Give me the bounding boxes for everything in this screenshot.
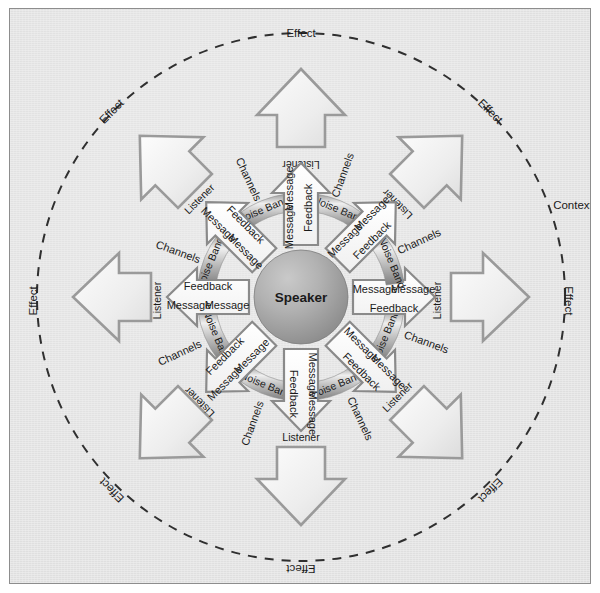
channels-label: Channels (234, 156, 265, 204)
effect-arrow (257, 69, 345, 147)
channels-label: Channels (345, 395, 376, 443)
diagram-stage: Noise BandListenerChannelsMessageMessage… (10, 9, 591, 584)
spoke-group: Noise BandListenerChannelsMessageMessage… (73, 234, 249, 341)
channels-label: Channels (156, 337, 204, 368)
channels-label: Channels (239, 399, 266, 447)
communication-model-svg: Noise BandListenerChannelsMessageMessage… (10, 9, 591, 584)
message-label: Message (283, 166, 295, 211)
listener-label: Listener (151, 281, 163, 319)
channels-label: Channels (403, 328, 451, 355)
effect-arrow (257, 447, 345, 525)
effect-arrow (73, 253, 151, 341)
channels-label: Channels (395, 226, 443, 257)
feedback-label: Feedback (370, 302, 419, 314)
spoke-group: Noise BandListenerChannelsMessageMessage… (353, 253, 529, 363)
message-label: Message (307, 390, 319, 435)
channels-label: Channels (154, 238, 202, 265)
context-label: Context (553, 199, 591, 211)
effect-label: Effect (286, 27, 316, 39)
spoke-group: Noise BandListenerChannelsMessageMessage… (238, 349, 345, 525)
feedback-label: Feedback (184, 280, 233, 292)
effect-arrow (390, 136, 462, 208)
feedback-label: Feedback (302, 183, 314, 232)
effect-label: Effect (286, 563, 316, 575)
message-label: Message (167, 299, 212, 311)
effect-arrow (451, 253, 529, 341)
center-layer: Speaker (254, 250, 348, 344)
effect-label: Effect (27, 285, 39, 315)
spoke-group: Noise BandListenerChannelsMessageMessage… (257, 69, 366, 249)
diagram-page: Noise BandListenerChannelsMessageMessage… (0, 0, 600, 593)
speaker-label: Speaker (275, 290, 328, 305)
effect-label: Effect (475, 476, 505, 506)
effect-label: Effect (476, 97, 506, 127)
message-label: Message (205, 299, 250, 311)
channels-label: Channels (329, 151, 356, 199)
feedback-label: Feedback (288, 370, 300, 419)
effect-label: Effect (97, 96, 127, 126)
effect-label: Effect (563, 286, 575, 316)
diagram-frame: Noise BandListenerChannelsMessageMessage… (9, 8, 591, 584)
